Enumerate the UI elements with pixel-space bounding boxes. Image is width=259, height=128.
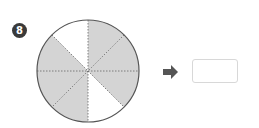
right-arrow-icon: [163, 65, 178, 79]
slice-shaded: [88, 71, 139, 107]
slice-shaded: [37, 35, 88, 71]
answer-input-box[interactable]: [192, 59, 238, 83]
